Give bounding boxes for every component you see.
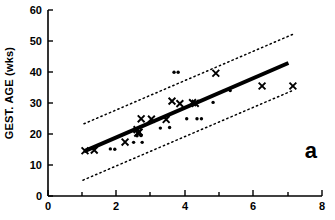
data-point-dot xyxy=(140,141,143,144)
x-tick-label-6: 6 xyxy=(243,200,263,212)
y-tick-label-40: 40 xyxy=(14,66,42,78)
x-tick-label-0: 0 xyxy=(38,200,58,212)
data-point-dot xyxy=(200,117,203,120)
y-tick-label-10: 10 xyxy=(14,159,42,171)
data-point-dot xyxy=(185,117,188,120)
data-point-dot xyxy=(172,71,175,74)
y-axis-title: GEST. AGE (wks) xyxy=(0,0,18,185)
data-point-dot xyxy=(109,147,112,150)
data-point-dot xyxy=(176,71,179,74)
data-point-dot xyxy=(159,126,162,129)
data-point-dot xyxy=(135,134,138,137)
data-point-dot xyxy=(132,141,135,144)
y-tick-label-50: 50 xyxy=(14,35,42,47)
y-tick-label-60: 60 xyxy=(14,4,42,16)
upper-confidence-band xyxy=(84,34,294,124)
x-tick-label-2: 2 xyxy=(106,200,126,212)
panel-label: a xyxy=(305,140,317,162)
data-point-dot xyxy=(211,101,214,104)
axis-lines xyxy=(48,10,322,196)
plot-canvas xyxy=(0,0,335,220)
data-point-cross xyxy=(138,115,145,122)
lower-confidence-band xyxy=(83,90,294,180)
data-point-dot xyxy=(113,147,116,150)
fitted-regression-line xyxy=(84,63,288,151)
data-point-cross xyxy=(259,83,266,90)
data-point-cross xyxy=(289,83,296,90)
x-tick-label-8: 8 xyxy=(312,200,332,212)
data-point-dot xyxy=(168,126,171,129)
data-point-cross xyxy=(176,100,183,107)
y-tick-label-30: 30 xyxy=(14,97,42,109)
x-axis-ticks xyxy=(48,190,322,196)
data-point-dot xyxy=(139,134,142,137)
data-point-cross xyxy=(212,70,219,77)
y-axis-title-text: GEST. AGE (wks) xyxy=(3,46,15,138)
scatter-plot-figure: GEST. AGE (wks) a xyxy=(0,0,335,220)
data-point-dot xyxy=(229,89,232,92)
x-tick-label-4: 4 xyxy=(175,200,195,212)
y-tick-label-20: 20 xyxy=(14,128,42,140)
data-point-cross xyxy=(122,139,129,146)
data-point-cross xyxy=(169,98,176,105)
cross-marker-group xyxy=(82,70,297,154)
data-point-dot xyxy=(195,117,198,120)
